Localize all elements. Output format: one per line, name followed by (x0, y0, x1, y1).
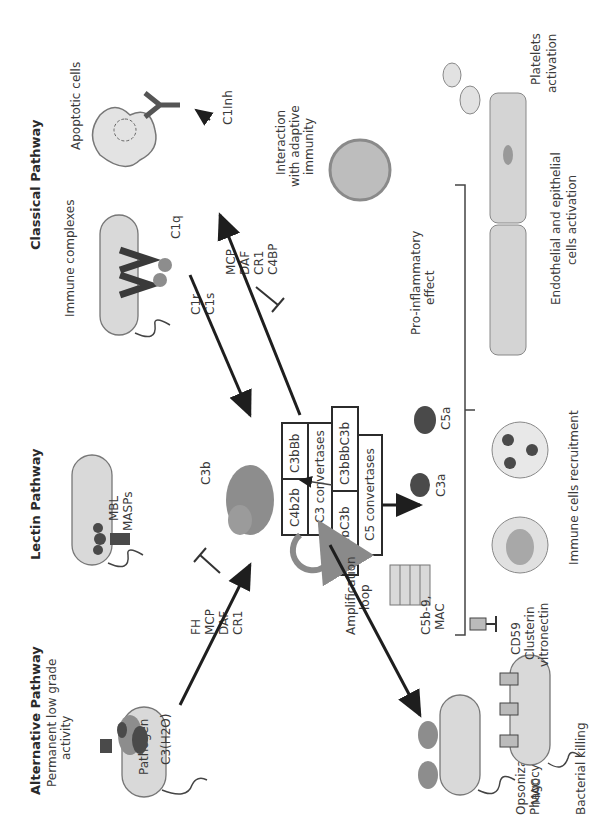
adaptive-label-3: immunity (302, 118, 316, 175)
mac-outcome-label: MAC (529, 778, 543, 805)
regulator-c4bp: C4BP (266, 244, 280, 275)
c1q-label: C1q (169, 215, 183, 239)
c5a-label: C5a (439, 407, 453, 430)
regulator-cr1: CR1 (252, 251, 266, 275)
c3b-label: C3b (199, 461, 213, 485)
c5-convertases-label: C5 convertases (363, 448, 377, 541)
c5-convertases: C4b2bC3b C3bBbC3b C5 convertases (332, 407, 382, 575)
alternative-subtitle-2: activity (59, 716, 73, 760)
alternative-pathway-title: Alternative Pathway (28, 646, 43, 795)
pro-inflammatory-label: Pro-inflammatory (409, 231, 423, 335)
c5b9-label: C5b-9, (419, 596, 433, 635)
lectin-pathway-title: Lectin Pathway (28, 448, 43, 560)
endothelial-cells-icon (490, 93, 526, 355)
c3a-label: C3a (434, 474, 448, 497)
platelets-label-2: activation (545, 34, 559, 93)
lymphocyte-icon (330, 140, 390, 200)
adaptive-arrow (220, 215, 300, 415)
regulator-clusterin: Clusterin (523, 606, 537, 660)
c3-convertases-label: C3 convertases (313, 430, 327, 523)
pro-inflammatory-bracket (455, 185, 475, 635)
mac-regulators: CD59 Clusterin vitronectin (470, 603, 551, 667)
mbl-label: MBL (107, 495, 121, 521)
c1inh-label: C1Inh (221, 90, 235, 125)
anaphylatoxins: C3a C5a (410, 406, 453, 497)
c3b-molecule-icon (226, 465, 274, 535)
platelets-label: Platelets (529, 33, 543, 85)
amplification-label-2: loop (358, 584, 372, 610)
immune-recruitment-label: Immune cells recruitment (567, 410, 581, 565)
alternative-arrow (180, 565, 250, 705)
classical-arrow (190, 275, 250, 415)
effect-label: effect (423, 270, 437, 305)
bacterial-killing-label: Bacterial killing (574, 722, 588, 815)
classical-pathway-title: Classical Pathway (28, 119, 43, 250)
adaptive-label-2: with adaptive (288, 105, 302, 187)
regulator-fh: FH (189, 619, 203, 635)
mac-pathogen-icon (500, 655, 580, 767)
regulator-cr1: CR1 (231, 611, 245, 635)
alternative-subtitle: Permanent low grade (45, 659, 59, 787)
mac-label: MAC (433, 603, 447, 630)
alternative-pathway: Alternative Pathway Permanent low grade … (28, 646, 207, 797)
c3h2o-label: C3(H2O) (159, 714, 173, 765)
platelets-icon (443, 63, 480, 114)
apoptotic-cells-label: Apoptotic cells (69, 62, 83, 150)
immune-cells-icon (492, 422, 548, 573)
regulator-cd59: CD59 (509, 622, 523, 655)
c3bbb-label: C3bBb (288, 434, 302, 473)
apoptotic-cell-icon (93, 93, 181, 166)
immune-complexes-label: Immune complexes (63, 200, 77, 317)
c3-convertases: C4b2b C3bBb C3 convertases (282, 423, 332, 535)
masps-label: MASPs (121, 492, 135, 531)
c4b2b-label: C4b2b (288, 488, 302, 527)
lectin-pathway: Lectin Pathway MBL MASPs (28, 448, 143, 567)
adaptive-label: Interaction (274, 110, 288, 175)
endothelial-label: Endothelial and epithelial (549, 152, 563, 305)
complement-diagram: Alternative Pathway Permanent low grade … (0, 0, 596, 835)
classical-pathway: Classical Pathway Immune complexes C1r C… (28, 62, 235, 337)
inhibition-icon (194, 548, 220, 573)
c3bbbc3b-label: C3bBbC3b (338, 422, 352, 485)
regulator-mcp: MCP (203, 609, 217, 635)
regulator-vitronectin: vitronectin (537, 603, 551, 667)
amplification-loop-icon (293, 535, 333, 570)
inhibition-icon (256, 287, 284, 312)
endothelial-label-2: cells activation (565, 175, 579, 265)
